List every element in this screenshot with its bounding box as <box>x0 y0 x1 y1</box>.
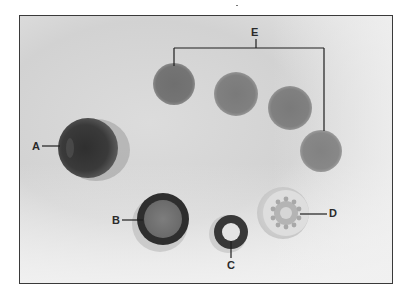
label-d: D <box>329 208 337 219</box>
part-b-ring <box>132 193 189 252</box>
disc-e-4 <box>300 130 342 172</box>
disc-e-3 <box>268 86 312 130</box>
disc-e-1 <box>153 63 195 105</box>
disc-e-2 <box>214 72 258 116</box>
cylinder-a-highlight <box>66 138 74 158</box>
ring-c-hole <box>222 223 240 241</box>
part-a-cylinder <box>58 118 130 181</box>
label-b: B <box>112 215 120 226</box>
part-d-gear-disc <box>257 187 309 239</box>
part-e-discs <box>153 63 342 172</box>
parts-illustration <box>0 0 404 299</box>
part-c-oring <box>209 215 248 253</box>
label-c: C <box>227 260 235 271</box>
label-e: E <box>251 27 258 38</box>
figure-container: E A B C D <box>0 0 404 299</box>
ring-b-filter <box>144 200 182 238</box>
label-a: A <box>32 141 40 152</box>
